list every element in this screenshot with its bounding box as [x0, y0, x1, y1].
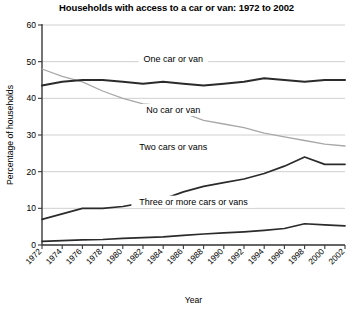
y-tick-label: 30 [27, 130, 37, 140]
x-tick-label: 1994 [245, 246, 265, 266]
series-label: One car or van [144, 54, 204, 64]
y-tick-label: 60 [27, 20, 37, 30]
x-tick-label: 1998 [286, 246, 306, 266]
series-label: No car or van [146, 105, 200, 115]
xtick-labels-group: 1972197419761978198019821984198619881990… [23, 246, 346, 266]
series-line [42, 224, 345, 242]
x-tick-label: 1982 [124, 246, 144, 266]
x-tick-label: 1996 [266, 246, 286, 266]
x-tick-label: 2000 [306, 246, 326, 266]
x-tick-label: 1986 [165, 246, 185, 266]
series-group [42, 69, 345, 241]
y-tick-label: 10 [27, 203, 37, 213]
series-label: Two cars or vans [139, 142, 208, 152]
series-line [42, 157, 345, 219]
y-tick-label: 40 [27, 93, 37, 103]
y-tick-label: 20 [27, 167, 37, 177]
ytick-labels-group: 0102030405060 [27, 20, 37, 250]
x-tick-label: 1990 [205, 246, 225, 266]
chart-container: Households with access to a car or van: … [0, 0, 353, 309]
x-axis-title: Year [185, 295, 203, 305]
x-tick-label: 1992 [225, 246, 245, 266]
x-tick-label: 1972 [23, 246, 43, 266]
x-tick-label: 1976 [64, 246, 84, 266]
line-chart-plot: 0102030405060 19721974197619781980198219… [0, 0, 353, 309]
y-tick-label: 50 [27, 57, 37, 67]
series-label: Three or more cars or vans [139, 197, 248, 207]
series-labels-group: No car or vanOne car or vanTwo cars or v… [131, 53, 255, 208]
x-tick-label: 2002 [326, 246, 346, 266]
x-tick-label: 1974 [43, 246, 63, 266]
x-tick-label: 1980 [104, 246, 124, 266]
x-tick-label: 1988 [185, 246, 205, 266]
y-axis-title: Percentage of households [5, 85, 15, 185]
x-tick-label: 1984 [144, 246, 164, 266]
x-tick-label: 1978 [84, 246, 104, 266]
